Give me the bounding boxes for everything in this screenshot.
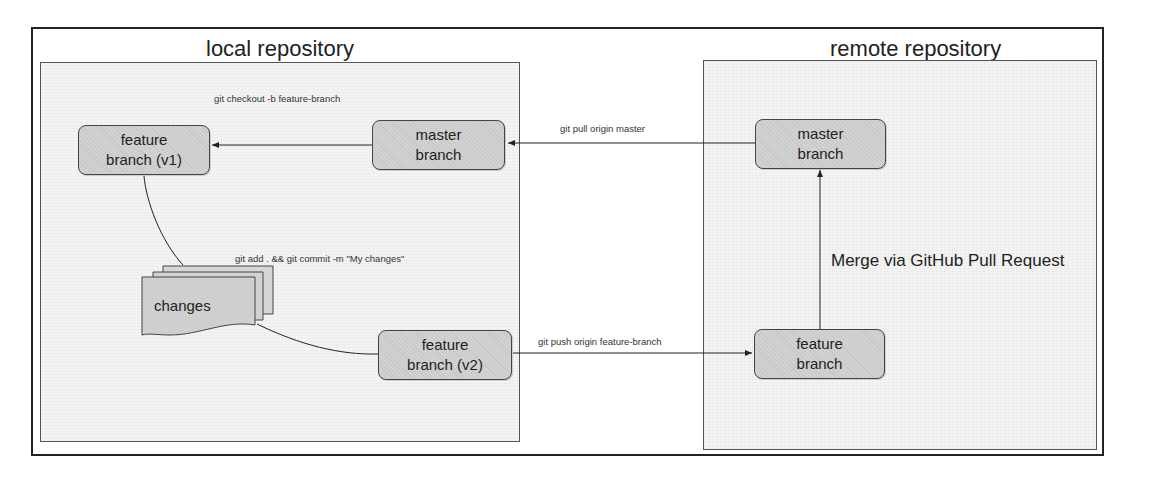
node-label-line2: branch (v1) xyxy=(106,150,182,170)
node-label-line1: master xyxy=(798,124,844,144)
node-label-line1: feature xyxy=(796,334,843,354)
node-label-line1: master xyxy=(416,125,462,145)
node-label-line2: branch xyxy=(416,145,462,165)
node-label-line1: feature xyxy=(422,335,469,355)
remote-feature-branch-node: feature branch xyxy=(754,329,885,379)
pull-command-label: git pull origin master xyxy=(560,123,645,134)
local-feature-branch-v1-node: feature branch (v1) xyxy=(78,125,210,175)
merge-pull-request-label: Merge via GitHub Pull Request xyxy=(831,251,1064,271)
node-label-line2: branch (v2) xyxy=(407,355,483,375)
local-repository-title: local repository xyxy=(206,36,354,62)
commit-command-label: git add . && git commit -m "My changes" xyxy=(235,253,404,264)
push-command-label: git push origin feature-branch xyxy=(538,336,662,347)
node-label-line1: feature xyxy=(121,130,168,150)
local-feature-branch-v2-node: feature branch (v2) xyxy=(378,330,512,380)
checkout-command-label: git checkout -b feature-branch xyxy=(214,93,340,104)
node-label-line2: branch xyxy=(798,144,844,164)
local-repository-panel xyxy=(40,62,520,442)
changes-label: changes xyxy=(154,297,211,314)
remote-master-branch-node: master branch xyxy=(755,119,886,169)
node-label-line2: branch xyxy=(797,354,843,374)
local-master-branch-node: master branch xyxy=(372,120,505,170)
remote-repository-title: remote repository xyxy=(830,36,1001,62)
